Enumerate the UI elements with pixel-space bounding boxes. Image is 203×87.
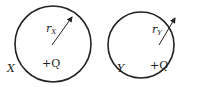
sphere-x-label: X xyxy=(6,62,16,75)
radius-y-label: rY xyxy=(152,23,163,37)
diagram-canvas: rX +Q X rY +Q Y xyxy=(0,0,203,87)
charge-x-label: +Q xyxy=(42,57,60,70)
radius-x-label: rX xyxy=(46,22,57,36)
charge-y-label: +Q xyxy=(150,59,168,72)
sphere-y: rY +Q Y xyxy=(108,12,175,78)
sphere-x: rX +Q X xyxy=(6,6,91,82)
